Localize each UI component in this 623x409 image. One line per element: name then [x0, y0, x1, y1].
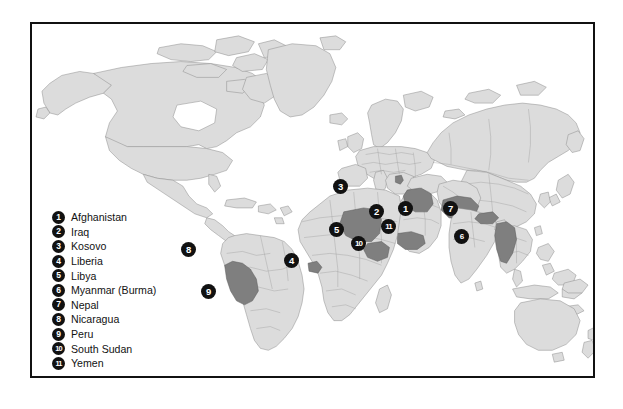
- legend-label-myanmar: Myanmar (Burma): [71, 284, 156, 296]
- legend-badge-11: 11: [52, 357, 65, 370]
- legend-badge-2: 2: [52, 225, 65, 238]
- legend-label-iraq: Iraq: [71, 226, 89, 238]
- map-marker-peru[interactable]: 9: [201, 284, 216, 299]
- map-marker-south-sudan[interactable]: 10: [351, 236, 366, 251]
- legend-badge-3: 3: [52, 240, 65, 253]
- map-marker-kosovo[interactable]: 3: [333, 179, 348, 194]
- legend-item-nicaragua[interactable]: 8 Nicaragua: [52, 312, 202, 327]
- legend-label-afghanistan: Afghanistan: [71, 211, 127, 223]
- legend-item-yemen[interactable]: 11 Yemen: [52, 356, 202, 371]
- legend: 1 Afghanistan 2 Iraq 3 Kosovo 4 Liberia …: [52, 210, 202, 371]
- legend-label-nicaragua: Nicaragua: [71, 313, 119, 325]
- map-marker-nepal[interactable]: 7: [443, 201, 458, 216]
- legend-item-iraq[interactable]: 2 Iraq: [52, 225, 202, 240]
- legend-badge-4: 4: [52, 255, 65, 268]
- legend-badge-1: 1: [52, 211, 65, 224]
- map-marker-yemen[interactable]: 11: [381, 219, 396, 234]
- legend-label-yemen: Yemen: [71, 357, 104, 369]
- legend-badge-6: 6: [52, 284, 65, 297]
- map-marker-libya[interactable]: 5: [329, 222, 344, 237]
- legend-item-nepal[interactable]: 7 Nepal: [52, 298, 202, 313]
- legend-item-libya[interactable]: 5 Libya: [52, 268, 202, 283]
- legend-label-kosovo: Kosovo: [71, 240, 106, 252]
- legend-label-peru: Peru: [71, 328, 93, 340]
- map-marker-liberia[interactable]: 4: [284, 253, 299, 268]
- legend-badge-9: 9: [52, 328, 65, 341]
- legend-item-liberia[interactable]: 4 Liberia: [52, 254, 202, 269]
- legend-badge-5: 5: [52, 269, 65, 282]
- legend-item-kosovo[interactable]: 3 Kosovo: [52, 239, 202, 254]
- legend-item-afghanistan[interactable]: 1 Afghanistan: [52, 210, 202, 225]
- legend-item-myanmar[interactable]: 6 Myanmar (Burma): [52, 283, 202, 298]
- legend-label-nepal: Nepal: [71, 299, 99, 311]
- map-marker-myanmar[interactable]: 6: [454, 229, 469, 244]
- legend-label-south-sudan: South Sudan: [71, 343, 132, 355]
- legend-badge-10: 10: [52, 342, 65, 355]
- screenshot-root: .land { fill: #dcdcdc; stroke: #8a8a8a; …: [0, 0, 623, 409]
- map-marker-afghanistan[interactable]: 1: [398, 201, 413, 216]
- legend-badge-7: 7: [52, 298, 65, 311]
- map-marker-iraq[interactable]: 2: [369, 204, 384, 219]
- legend-label-libya: Libya: [71, 270, 96, 282]
- legend-item-south-sudan[interactable]: 10 South Sudan: [52, 341, 202, 356]
- legend-item-peru[interactable]: 9 Peru: [52, 327, 202, 342]
- legend-label-liberia: Liberia: [71, 255, 103, 267]
- legend-badge-8: 8: [52, 313, 65, 326]
